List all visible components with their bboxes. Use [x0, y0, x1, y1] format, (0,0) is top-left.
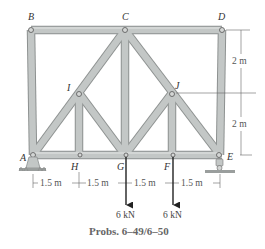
joint-label-I: I	[66, 82, 71, 93]
member-DE	[220, 30, 222, 155]
truss-members	[31, 28, 222, 155]
joint-label-G: G	[117, 161, 124, 172]
member-JG	[125, 93, 172, 155]
pin-J	[170, 92, 175, 97]
dim-FE: 1.5 m	[181, 178, 203, 188]
member-AB	[31, 30, 33, 155]
pin-I	[77, 92, 82, 97]
dim-GF: 1.5 m	[134, 178, 156, 188]
pin-C	[123, 28, 128, 33]
joint-label-H: H	[70, 161, 79, 172]
vertical-dimensions	[176, 30, 256, 155]
pin-D	[220, 28, 225, 33]
pin-F	[171, 153, 175, 157]
dim-AH: 1.5 m	[40, 178, 62, 188]
joint-label-A: A	[19, 152, 27, 163]
pin-E	[217, 153, 222, 158]
member-IG	[79, 93, 125, 155]
joint-label-C: C	[122, 11, 129, 22]
load-label-F: 6 kN	[163, 210, 182, 220]
dim-HG: 1.5 m	[87, 178, 109, 188]
figure-caption: Probs. 6–49/6–50	[89, 225, 169, 237]
load-label-G: 6 kN	[116, 210, 135, 220]
joint-label-E: E	[226, 151, 233, 162]
pin-H	[78, 153, 82, 157]
joint-label-D: D	[217, 11, 226, 22]
joint-label-F: F	[163, 161, 171, 172]
pin-G	[124, 153, 128, 157]
dim-vertical-lower: 2 m	[232, 119, 247, 129]
pin-B	[29, 28, 34, 33]
truss-diagram: B C D I J A H G F E 2 m 2 m 1.5 m 1.5 m …	[0, 0, 265, 249]
joint-label-B: B	[28, 11, 34, 22]
dim-vertical-upper: 2 m	[232, 56, 247, 66]
joint-label-J: J	[175, 80, 180, 91]
